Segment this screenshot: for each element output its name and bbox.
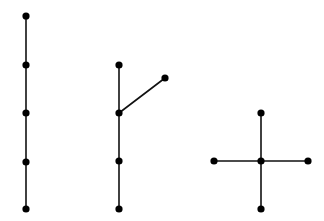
node	[22, 205, 29, 212]
node	[304, 157, 311, 164]
graph-branched-tree-nodes	[115, 61, 168, 212]
node	[115, 109, 122, 116]
node	[22, 12, 29, 19]
node	[115, 205, 122, 212]
node	[115, 157, 122, 164]
node	[115, 61, 122, 68]
edges-layer	[26, 16, 308, 209]
edge	[119, 78, 165, 113]
graph-branched-tree-edges	[119, 65, 165, 209]
node	[257, 109, 264, 116]
node	[210, 157, 217, 164]
graph-diagram	[0, 0, 324, 221]
node	[161, 74, 168, 81]
node	[257, 157, 264, 164]
node	[22, 158, 29, 165]
node	[22, 61, 29, 68]
node	[257, 205, 264, 212]
nodes-layer	[22, 12, 311, 212]
node	[22, 109, 29, 116]
